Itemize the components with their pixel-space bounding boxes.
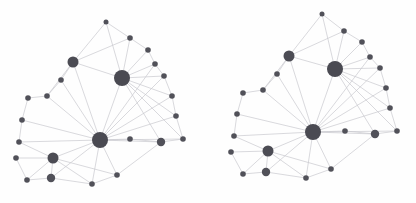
graph-node-L6[interactable] bbox=[145, 47, 151, 53]
graph-edge bbox=[73, 62, 100, 140]
graph-node-R20[interactable] bbox=[240, 171, 246, 177]
graph-edge bbox=[61, 80, 100, 140]
graph-node-L2[interactable] bbox=[68, 57, 79, 68]
graph-edge bbox=[237, 93, 243, 114]
graph-node-L3[interactable] bbox=[48, 153, 59, 164]
edge-group-right-network bbox=[231, 14, 397, 178]
graph-node-L9[interactable] bbox=[169, 93, 175, 99]
graph-edge bbox=[234, 136, 268, 151]
graph-node-L10[interactable] bbox=[173, 113, 179, 119]
graph-node-R21[interactable] bbox=[262, 168, 270, 176]
graph-edge bbox=[335, 69, 386, 88]
graph-node-R23[interactable] bbox=[328, 166, 334, 172]
graph-edge bbox=[22, 98, 28, 120]
graph-node-R14[interactable] bbox=[274, 71, 280, 77]
edge-group-left-network bbox=[16, 22, 183, 184]
graph-edge bbox=[19, 120, 22, 142]
graph-node-R15[interactable] bbox=[260, 87, 266, 93]
graph-edge bbox=[92, 175, 117, 184]
graph-node-R2[interactable] bbox=[284, 51, 295, 62]
graph-node-L20[interactable] bbox=[24, 177, 30, 183]
graph-node-L1[interactable] bbox=[114, 70, 130, 86]
graph-node-L19[interactable] bbox=[13, 155, 19, 161]
graph-node-R7[interactable] bbox=[367, 54, 373, 60]
graph-edge bbox=[331, 134, 375, 169]
graph-edge bbox=[53, 158, 117, 175]
graph-node-L11[interactable] bbox=[180, 136, 186, 142]
graph-edge bbox=[16, 158, 27, 180]
graph-edge bbox=[243, 90, 263, 93]
graph-node-R6[interactable] bbox=[359, 39, 365, 45]
graph-node-L22[interactable] bbox=[89, 181, 95, 187]
graph-node-L8[interactable] bbox=[161, 73, 167, 79]
graph-node-L4[interactable] bbox=[104, 20, 109, 25]
graph-node-R5[interactable] bbox=[341, 28, 347, 34]
graph-edge bbox=[172, 96, 176, 116]
graph-edge bbox=[266, 172, 306, 178]
graph-edge bbox=[289, 14, 322, 56]
graph-node-R3[interactable] bbox=[263, 146, 274, 157]
graph-edge bbox=[289, 31, 344, 56]
graph-node-L16[interactable] bbox=[25, 95, 31, 101]
graph-edge bbox=[106, 22, 122, 78]
graph-node-R10[interactable] bbox=[387, 105, 393, 111]
graph-edge bbox=[19, 142, 53, 158]
graph-node-L7[interactable] bbox=[152, 61, 158, 67]
graph-edge bbox=[47, 80, 61, 96]
graph-node-R22[interactable] bbox=[303, 175, 309, 181]
graph-node-L14[interactable] bbox=[58, 77, 64, 83]
graph-edge bbox=[231, 152, 243, 174]
graph-node-R9[interactable] bbox=[383, 85, 389, 91]
graph-edge bbox=[263, 74, 277, 90]
graph-edge bbox=[313, 108, 390, 132]
graph-edge bbox=[263, 90, 313, 132]
graph-node-L17[interactable] bbox=[19, 117, 25, 123]
graph-node-R4[interactable] bbox=[320, 12, 325, 17]
graph-edge bbox=[237, 114, 313, 132]
graph-node-L13[interactable] bbox=[127, 136, 133, 142]
graph-edge bbox=[100, 96, 172, 140]
graph-node-R13[interactable] bbox=[342, 128, 348, 134]
graph-edge bbox=[268, 151, 331, 169]
graph-edge bbox=[73, 22, 106, 62]
graph-edge bbox=[19, 140, 100, 142]
graph-edge bbox=[28, 96, 47, 98]
graph-edge bbox=[268, 151, 306, 178]
graph-edge bbox=[117, 142, 161, 175]
graph-node-L5[interactable] bbox=[127, 35, 133, 41]
graph-node-L12[interactable] bbox=[157, 138, 165, 146]
graph-node-R16[interactable] bbox=[240, 90, 246, 96]
graph-node-R18[interactable] bbox=[231, 133, 237, 139]
graph-edge bbox=[344, 31, 362, 42]
graph-edge bbox=[100, 76, 164, 140]
graph-edge bbox=[335, 69, 397, 131]
graph-edge bbox=[53, 158, 92, 184]
graph-node-R8[interactable] bbox=[377, 65, 383, 71]
graph-node-L23[interactable] bbox=[114, 172, 120, 178]
graph-node-R1[interactable] bbox=[327, 61, 343, 77]
graph-edge bbox=[313, 88, 386, 132]
graph-node-R11[interactable] bbox=[394, 128, 400, 134]
graph-node-L18[interactable] bbox=[16, 139, 22, 145]
network-figure bbox=[0, 0, 416, 203]
graph-edge bbox=[306, 169, 331, 178]
graph-node-L21[interactable] bbox=[47, 174, 55, 182]
graph-edge bbox=[122, 78, 161, 142]
graph-edge bbox=[313, 69, 335, 132]
graph-edge bbox=[277, 74, 313, 132]
graph-node-L0[interactable] bbox=[92, 132, 108, 148]
graph-edge bbox=[51, 178, 92, 184]
graph-node-R0[interactable] bbox=[305, 124, 321, 140]
graph-edge bbox=[234, 132, 313, 136]
node-group-right-network bbox=[228, 12, 400, 181]
graph-edge bbox=[380, 68, 386, 88]
graph-node-R17[interactable] bbox=[234, 111, 240, 117]
graph-edge bbox=[73, 38, 130, 62]
edges-layer bbox=[16, 14, 397, 184]
graph-node-R19[interactable] bbox=[228, 149, 234, 155]
graph-node-L15[interactable] bbox=[44, 93, 50, 99]
graph-edge bbox=[231, 151, 268, 152]
graph-edge bbox=[234, 114, 237, 136]
graph-edge bbox=[130, 38, 148, 50]
graph-node-R12[interactable] bbox=[371, 130, 379, 138]
